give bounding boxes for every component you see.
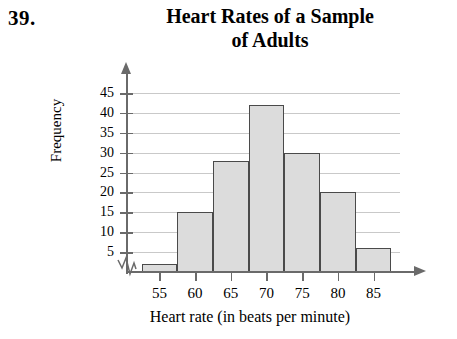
y-axis-title: Frequency	[48, 71, 65, 191]
x-axis-tick-label: 60	[178, 285, 212, 301]
x-axis-tick-label: 55	[142, 285, 176, 301]
x-axis-tick	[266, 272, 268, 281]
y-axis-tick	[120, 252, 133, 254]
y-axis-tick-label: 30	[88, 146, 114, 160]
y-axis-tick-label: 40	[88, 106, 114, 120]
y-axis-tick	[120, 133, 133, 135]
histogram-bar	[213, 161, 249, 272]
histogram-bar	[284, 153, 320, 272]
x-axis-line	[126, 271, 416, 273]
histogram-bar	[356, 248, 392, 272]
chart-title-line-1: Heart Rates of a Sample	[120, 4, 420, 28]
x-axis-tick	[159, 272, 161, 281]
x-axis-tick	[195, 272, 197, 281]
x-axis-tick	[338, 272, 340, 281]
x-axis-tick	[374, 272, 376, 281]
y-axis-tick	[120, 173, 133, 175]
y-axis-tick	[120, 192, 133, 194]
x-axis-arrow-icon	[414, 266, 426, 276]
x-axis-tick	[302, 272, 304, 281]
y-axis-tick	[120, 153, 133, 155]
problem-number: 39.	[8, 6, 36, 31]
x-axis-tick	[231, 272, 233, 281]
y-axis-tick	[120, 232, 133, 234]
histogram-bar	[249, 105, 285, 272]
y-axis-tick-label: 5	[88, 245, 114, 259]
y-axis-arrow-icon	[121, 62, 131, 74]
y-axis-tick-label: 15	[88, 205, 114, 219]
histogram-figure: 39. Heart Rates of a Sample of Adults Fr…	[0, 0, 457, 339]
x-axis-tick-label: 65	[214, 285, 248, 301]
histogram-bar	[177, 212, 213, 272]
y-axis-tick-label: 35	[88, 126, 114, 140]
x-axis-tick-label: 85	[357, 285, 391, 301]
y-axis-tick-label: 45	[88, 86, 114, 100]
x-axis-tick-label: 80	[321, 285, 355, 301]
chart-title-line-2: of Adults	[120, 28, 420, 52]
plot-area	[128, 85, 400, 272]
x-axis-tick-label: 75	[285, 285, 319, 301]
y-axis-tick-label: 10	[88, 225, 114, 239]
y-axis-tick-label: 20	[88, 185, 114, 199]
y-axis-tick-label: 25	[88, 166, 114, 180]
x-axis-title: Heart rate (in beats per minute)	[100, 308, 400, 326]
chart-title: Heart Rates of a Sample of Adults	[120, 4, 420, 53]
y-axis-tick	[120, 113, 133, 115]
y-axis-tick	[120, 212, 133, 214]
axis-break-icon	[117, 256, 139, 278]
gridline	[128, 93, 400, 94]
histogram-bar	[320, 192, 356, 272]
y-axis-tick	[120, 93, 133, 95]
x-axis-tick-label: 70	[249, 285, 283, 301]
